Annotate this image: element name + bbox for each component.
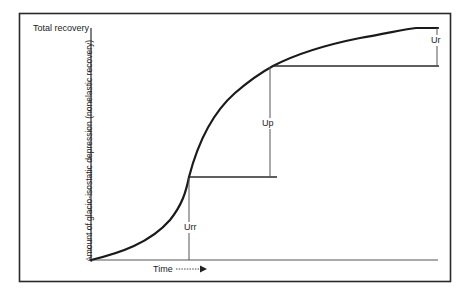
up-label: Up <box>262 118 274 129</box>
y-axis-label: Amount of glacio-isostatic depression (n… <box>85 40 94 262</box>
urr-label: Urr <box>184 222 197 233</box>
diagram-canvas <box>0 0 468 294</box>
x-axis-label: Time <box>153 265 173 274</box>
total-recovery-label: Total recovery <box>33 24 89 33</box>
ur-label: Ur <box>431 35 441 46</box>
time-arrow-head <box>200 266 207 273</box>
recovery-curve <box>91 28 438 260</box>
